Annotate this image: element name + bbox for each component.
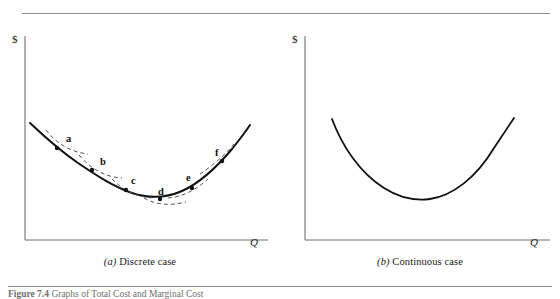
curve-point-b <box>90 168 94 172</box>
panel-a-caption: (a) Discrete case <box>0 256 280 267</box>
panel-b-caption-text: Continuous case <box>392 256 463 267</box>
panel-continuous-case: $ Q (b) Continuous case <box>280 18 560 278</box>
top-rule <box>22 13 550 14</box>
point-label-a: a <box>66 133 72 144</box>
figure-caption-text: Graphs of Total Cost and Marginal Cost <box>51 289 203 299</box>
point-label-b: b <box>100 156 106 167</box>
total-cost-curve <box>332 118 514 200</box>
panel-b-enumerator: (b) <box>377 256 390 267</box>
figure-sheet: a b c d e f $ Q (a) Discrete case <box>0 0 560 299</box>
curve-point-f <box>220 159 224 163</box>
curve-point-c <box>124 188 128 192</box>
bottom-rule <box>8 286 552 287</box>
tangent-arc-d <box>144 198 186 204</box>
y-axis-label-dollar: $ <box>12 33 18 45</box>
total-cost-curve <box>30 123 250 197</box>
figure-caption-number: Figure 7.4 <box>8 289 49 299</box>
panel-discrete-case: a b c d e f $ Q (a) Discrete case <box>0 18 280 278</box>
discrete-case-plot: a b c d e f <box>0 18 280 278</box>
panel-a-enumerator: (a) <box>104 256 117 267</box>
curve-point-d <box>158 197 162 201</box>
figure-caption: Figure 7.4 Graphs of Total Cost and Marg… <box>8 289 552 299</box>
x-axis-label-quantity: Q <box>250 236 258 248</box>
x-axis-label-quantity: Q <box>530 236 538 248</box>
y-axis-label-dollar: $ <box>292 33 298 45</box>
continuous-case-plot <box>280 18 560 278</box>
point-label-f: f <box>215 147 219 158</box>
panel-container: a b c d e f $ Q (a) Discrete case <box>0 18 560 278</box>
point-label-c: c <box>131 175 136 186</box>
point-label-e: e <box>186 172 191 183</box>
point-label-d: d <box>158 186 164 197</box>
panel-a-caption-text: Discrete case <box>119 256 176 267</box>
curve-point-a <box>55 146 59 150</box>
panel-b-caption: (b) Continuous case <box>280 256 560 267</box>
curve-point-e <box>190 186 194 190</box>
